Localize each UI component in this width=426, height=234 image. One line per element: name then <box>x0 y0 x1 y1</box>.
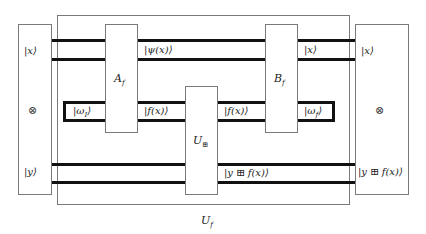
label-omega-in: |ωI⟩ <box>73 105 91 121</box>
left-top-state: |x⟩ <box>24 45 37 57</box>
label-x-out: |x⟩ <box>304 44 317 56</box>
right-top-state: |x⟩ <box>361 45 374 57</box>
wire-x-top-1 <box>51 39 355 42</box>
right-tensor-icon: ⊗ <box>375 104 384 117</box>
gate-b-f-label: Bf <box>274 72 285 87</box>
left-bottom-state: |y⟩ <box>24 166 37 178</box>
label-omega-out: |ωf⟩ <box>304 105 322 121</box>
label-f-after-u: |f(x)⟩ <box>224 105 248 117</box>
gate-u-boxplus-label: U⊞ <box>193 134 208 149</box>
label-psi-x: |ψ(x)⟩ <box>144 44 173 56</box>
label-y-sum: |y ⊞ f(x)⟩ <box>224 167 269 179</box>
wire-x-top-2 <box>51 58 355 61</box>
outer-uf-label: Uf <box>201 214 213 229</box>
right-bottom-state: |y ⊞ f(x)⟩ <box>358 166 403 178</box>
left-tensor-icon: ⊗ <box>28 104 37 117</box>
label-f-after-a: |f(x)⟩ <box>144 105 168 117</box>
gate-a-f-label: Af <box>114 72 125 87</box>
